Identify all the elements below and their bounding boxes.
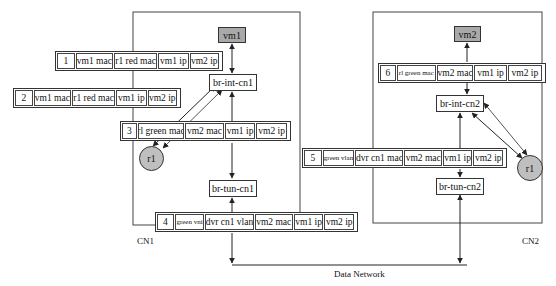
data-network-label: Data Network — [334, 269, 385, 279]
packet-field: vm2 mac — [437, 65, 473, 81]
packet-field: vm1 ip — [474, 65, 506, 81]
router-r1-cn1: r1 — [139, 146, 164, 171]
packet-field: rl green mac — [138, 123, 184, 139]
packet-field: vm1 ip — [443, 150, 473, 166]
diagram-lines — [0, 0, 556, 286]
packet-5: 5 green vlan dvr cn1 mac vm2 mac vm1 ip … — [302, 148, 507, 168]
packet-field: vm2 ip — [148, 90, 177, 106]
packet-field: vm1 mac — [76, 53, 113, 69]
packet-step: 2 — [15, 90, 33, 106]
host-label-cn1: CN1 — [137, 236, 154, 246]
packet-field: vm2 ip — [256, 123, 287, 139]
packet-4: 4 green vni dvr cn1 vlan vm2 mac vm1 ip … — [155, 212, 358, 232]
packet-field: green vlan — [323, 150, 355, 166]
packet-1: 1 vm1 mac r1 red mac vm1 ip vm2 ip — [55, 51, 223, 71]
packet-field: green vni — [175, 214, 205, 230]
packet-field: vm1 ip — [225, 123, 256, 139]
packet-field: vm1 mac — [34, 90, 71, 106]
br-int-cn1-node: br-int-cn1 — [209, 74, 257, 91]
packet-3: 3 rl green mac vm2 mac vm1 ip vm2 ip — [120, 121, 291, 141]
packet-field: vm1 ip — [116, 90, 146, 106]
packet-step: 4 — [157, 214, 174, 230]
packet-field: r1 red mac — [114, 53, 157, 69]
packet-field: vm2 mac — [255, 214, 293, 230]
packet-field: r1 red mac — [72, 90, 115, 106]
packet-step: 3 — [122, 123, 137, 139]
packet-step: 6 — [380, 65, 396, 81]
host-label-cn2: CN2 — [522, 236, 539, 246]
br-int-cn2-node: br-int-cn2 — [436, 95, 484, 112]
vm2-node: vm2 — [454, 26, 481, 42]
packet-field: vm2 mac — [185, 123, 224, 139]
packet-field: vm2 ip — [473, 150, 503, 166]
packet-field: vm1 ip — [158, 53, 188, 69]
packet-field: vm1 ip — [294, 214, 324, 230]
vm1-node: vm1 — [218, 27, 246, 43]
packet-field: vm2 ip — [508, 65, 542, 81]
packet-field: rl green mac — [397, 65, 436, 81]
router-r1-cn2: r1 — [517, 155, 543, 181]
packet-field: dvr cn1 vlan — [205, 214, 253, 230]
packet-step: 1 — [57, 53, 75, 69]
packet-field: dvr cn1 mac — [355, 150, 403, 166]
packet-field: vm2 ip — [324, 214, 354, 230]
packet-field: vm2 ip — [190, 53, 219, 69]
packet-field: vm2 mac — [404, 150, 441, 166]
packet-6: 6 rl green mac vm2 mac vm1 ip vm2 ip — [378, 63, 546, 83]
packet-2: 2 vm1 mac r1 red mac vm1 ip vm2 ip — [13, 88, 181, 108]
br-tun-cn2-node: br-tun-cn2 — [436, 178, 484, 195]
packet-step: 5 — [304, 150, 322, 166]
br-tun-cn1-node: br-tun-cn1 — [209, 180, 257, 197]
